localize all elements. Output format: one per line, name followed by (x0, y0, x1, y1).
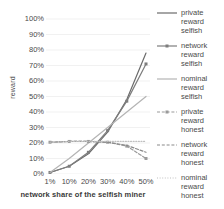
y-tick-label: 0% (8, 170, 44, 178)
y-tick-label: 100% (8, 15, 44, 23)
legend-label: nominal reward selfish (181, 74, 207, 102)
plot-area (46, 16, 150, 174)
legend-item[interactable]: private reward honest (156, 107, 224, 135)
x-tick-label: 50% (138, 177, 153, 186)
legend-label: private reward selfish (181, 8, 204, 36)
y-tick-label: 10% (8, 155, 44, 163)
legend-item[interactable]: private reward selfish (156, 8, 224, 36)
series-marker (145, 157, 148, 160)
x-tick-label: 1% (45, 177, 56, 186)
y-tick-label: 80% (8, 46, 44, 54)
y-tick-label: 30% (8, 124, 44, 132)
legend-item[interactable]: nominal reward selfish (156, 74, 224, 102)
legend-swatch-icon (156, 74, 178, 83)
x-tick-label: 20% (81, 177, 96, 186)
series-layer (49, 53, 148, 174)
legend-label: network reward honest (181, 140, 207, 168)
y-tick-label: 50% (8, 93, 44, 101)
x-tick-label: 30% (100, 177, 115, 186)
x-axis-ticks: 1%10%20%30%40%50% (40, 177, 158, 188)
y-tick-label: 70% (8, 62, 44, 70)
plot-svg (46, 16, 150, 174)
legend-item[interactable]: network reward selfish (156, 41, 224, 69)
legend-swatch-icon (156, 140, 178, 149)
legend-label: network reward selfish (181, 41, 207, 69)
legend-swatch-icon (156, 41, 178, 50)
legend-item[interactable]: network reward honest (156, 140, 224, 168)
y-tick-label: 20% (8, 139, 44, 147)
y-axis-ticks: 100%90%80%70%60%50%40%30%20%10%0% (8, 12, 44, 178)
legend-swatch-icon (156, 173, 178, 182)
x-tick-label: 10% (62, 177, 77, 186)
legend-swatch-icon (156, 107, 178, 116)
chart-figure: reward 100%90%80%70%60%50%40%30%20%10%0%… (0, 0, 224, 209)
y-tick-label: 40% (8, 108, 44, 116)
series-line (50, 97, 146, 173)
x-axis-label: network share of the selfish miner (8, 190, 158, 199)
x-tick-label: 40% (119, 177, 134, 186)
y-tick-label: 90% (8, 31, 44, 39)
series-marker (68, 165, 71, 168)
series-line (50, 64, 146, 173)
legend-label: private reward honest (181, 107, 204, 135)
series-marker (125, 100, 128, 103)
series-marker (106, 129, 109, 132)
legend-item[interactable]: nominal reward honest (156, 173, 224, 201)
series-line (50, 141, 146, 158)
chart-legend: private reward selfishnetwork reward sel… (156, 8, 224, 208)
y-tick-label: 60% (8, 77, 44, 85)
legend-label: nominal reward honest (181, 173, 207, 201)
series-marker (145, 62, 148, 65)
legend-swatch-icon (156, 8, 178, 17)
series-marker (87, 151, 90, 154)
series-line (50, 53, 146, 172)
